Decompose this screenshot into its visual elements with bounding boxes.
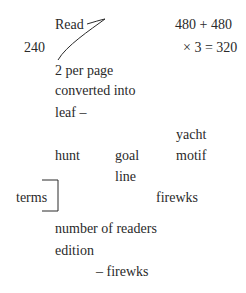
note-240: 240 [24,40,45,56]
note-yacht: yacht [176,127,206,143]
note-multiply: × 3 = 320 [183,40,237,56]
note-firewks-1: firewks [156,190,198,206]
note-goal: goal [115,148,139,164]
note-firewks-2: – firewks [96,264,149,280]
note-line: line [115,169,136,185]
note-per-page: 2 per page [55,63,113,79]
note-leaf: leaf – [55,105,86,121]
note-read: Read [55,17,84,33]
note-sum: 480 + 480 [175,17,232,33]
note-motif: motif [176,148,206,164]
note-terms: terms [16,190,47,206]
note-hunt: hunt [55,148,80,164]
note-readers: number of readers [55,221,157,237]
note-converted: converted into [55,83,135,99]
note-edition: edition [55,243,94,259]
